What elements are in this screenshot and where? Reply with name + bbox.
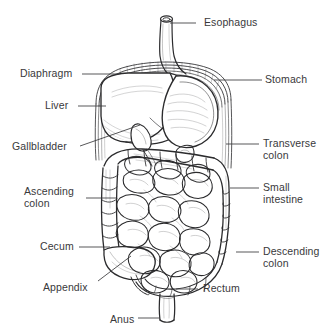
transverse-colon-organ <box>104 149 214 172</box>
anus-opening <box>160 320 174 322</box>
label-rectum: Rectum <box>203 283 240 295</box>
anatomy-diagram: EsophagusStomachTransverse colonSmall in… <box>0 0 326 333</box>
label-stomach: Stomach <box>265 74 307 86</box>
descending-colon-organ <box>213 158 230 264</box>
cecum-organ <box>104 247 155 280</box>
stomach-organ <box>162 76 218 163</box>
rectum-organ <box>159 294 175 322</box>
label-descending-colon: Descending colon <box>263 246 319 269</box>
label-esophagus: Esophagus <box>204 17 257 29</box>
ascending-colon-organ <box>102 166 119 250</box>
label-small-intestine: Small intestine <box>263 182 303 205</box>
label-transverse-colon: Transverse colon <box>263 138 316 161</box>
